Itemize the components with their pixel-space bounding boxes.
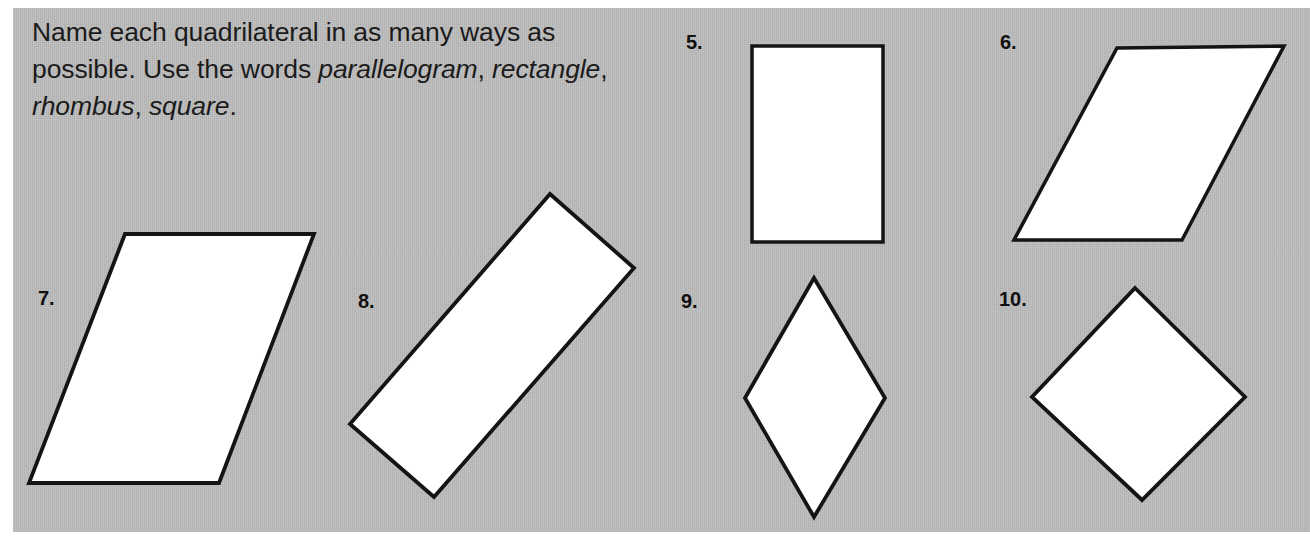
term-parallelogram: parallelogram (318, 54, 477, 84)
shape-rhombus-9 (737, 270, 893, 526)
comma-2: , (600, 54, 607, 84)
problem-number-9: 9. (681, 290, 698, 313)
worksheet-page: Name each quadrilateral in as many ways … (0, 0, 1310, 545)
shape-rectangle-5 (746, 40, 891, 250)
term-rectangle: rectangle (492, 54, 600, 84)
quadrilateral-outline (752, 46, 883, 242)
problem-number-7: 7. (38, 287, 55, 310)
problem-number-10: 10. (999, 288, 1027, 311)
term-rhombus: rhombus (32, 91, 134, 121)
term-square: square (149, 91, 229, 121)
quadrilateral-outline (29, 234, 314, 483)
shape-parallelogram-6 (1006, 38, 1296, 252)
shape-square-rotated-10 (1024, 280, 1253, 509)
quadrilateral-outline (1032, 288, 1245, 500)
shape-rectangle-rotated-8 (342, 186, 644, 506)
shape-parallelogram-7 (20, 226, 326, 494)
comma-3: , (134, 91, 149, 121)
instructions-line1: Name each quadrilateral in as many ways (32, 17, 520, 47)
quadrilateral-outline (745, 278, 885, 517)
quadrilateral-outline (350, 194, 634, 497)
comma-1: , (478, 54, 485, 84)
instructions-text: Name each quadrilateral in as many ways … (32, 14, 652, 125)
problem-number-5: 5. (686, 31, 703, 54)
quadrilateral-outline (1014, 46, 1284, 240)
problem-number-6: 6. (1000, 31, 1017, 54)
period: . (229, 91, 236, 121)
problem-number-8: 8. (358, 290, 375, 313)
